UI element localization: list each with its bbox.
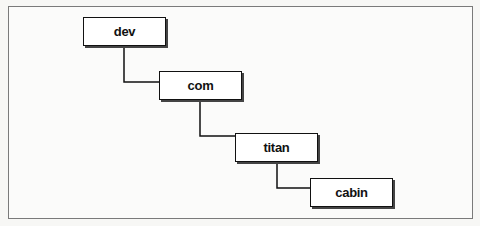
node-com: com bbox=[159, 71, 242, 100]
node-label: com bbox=[188, 78, 214, 93]
connector-lines bbox=[0, 0, 480, 226]
edge-com-titan bbox=[200, 100, 235, 136]
edge-dev-com bbox=[124, 46, 159, 82]
node-label: dev bbox=[114, 24, 136, 39]
node-cabin: cabin bbox=[310, 178, 393, 207]
edge-titan-cabin bbox=[277, 162, 310, 188]
node-dev: dev bbox=[83, 17, 166, 46]
node-label: titan bbox=[264, 140, 290, 155]
node-titan: titan bbox=[235, 133, 318, 162]
node-label: cabin bbox=[335, 185, 367, 200]
